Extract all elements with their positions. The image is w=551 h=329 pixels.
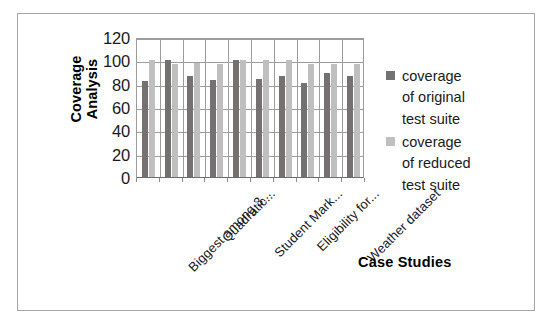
legend-entry-1[interactable]: coverage of reduced test suite	[386, 132, 536, 196]
x-axis-tick	[204, 178, 205, 182]
y-tick-label-80: 80	[80, 76, 130, 93]
bar-reduced-2	[194, 63, 200, 177]
bar-original-4	[233, 60, 239, 177]
y-tick-label-0: 0	[80, 170, 130, 187]
bar-reduced-5	[263, 60, 269, 177]
bar-reduced-7	[308, 64, 314, 177]
plot-area	[136, 38, 364, 178]
bar-original-3	[210, 80, 216, 177]
x-axis-tick	[136, 178, 137, 182]
bar-reduced-3	[217, 64, 223, 177]
x-axis-tick	[296, 178, 297, 182]
bar-group	[228, 39, 251, 177]
y-tick-label-40: 40	[80, 123, 130, 140]
x-axis-tick	[159, 178, 160, 182]
x-axis-tick	[364, 178, 365, 182]
x-axis-tick	[341, 178, 342, 182]
y-tick-label-120: 120	[80, 30, 130, 47]
bar-reduced-0	[149, 60, 155, 177]
x-axis-title: Case Studies	[358, 254, 451, 270]
x-axis-tick	[318, 178, 319, 182]
bar-group	[183, 39, 206, 177]
bar-group	[342, 39, 365, 177]
plot-inner	[137, 39, 363, 178]
y-tick-label-100: 100	[80, 53, 130, 70]
bar-reduced-8	[331, 64, 337, 177]
bar-original-6	[279, 76, 285, 178]
bar-group	[251, 39, 274, 177]
bar-reduced-1	[172, 64, 178, 177]
legend-entry-0[interactable]: coverage of original test suite	[386, 66, 536, 130]
bar-original-1	[165, 60, 171, 177]
bar-group	[160, 39, 183, 177]
x-axis-tick	[182, 178, 183, 182]
bar-original-7	[301, 83, 307, 178]
bar-reduced-4	[240, 60, 246, 177]
chart-frame: Coverage Analysis 120100806040200 Bigges…	[17, 13, 535, 311]
y-tick-label-60: 60	[80, 100, 130, 117]
y-tick-label-20: 20	[80, 146, 130, 163]
bar-group	[205, 39, 228, 177]
bar-reduced-6	[286, 60, 292, 177]
legend-label-1: coverage of reduced test suite	[402, 132, 536, 196]
bar-original-0	[142, 81, 148, 177]
chart-legend: coverage of original test suitecoverage …	[386, 66, 536, 198]
bar-group	[297, 39, 320, 177]
bar-group	[137, 39, 160, 177]
x-axis-tick	[273, 178, 274, 182]
bar-original-2	[187, 76, 193, 178]
reduced-series-swatch	[386, 137, 395, 146]
chart-figure: Coverage Analysis 120100806040200 Bigges…	[0, 0, 551, 329]
bar-original-9	[347, 76, 353, 178]
x-category-label-1: Quadratic...	[219, 186, 278, 245]
x-axis-tick	[227, 178, 228, 182]
x-axis-tick	[250, 178, 251, 182]
bar-original-8	[324, 73, 330, 177]
legend-label-0: coverage of original test suite	[402, 66, 536, 130]
y-axis-tick-labels: 120100806040200	[80, 38, 130, 178]
bar-group	[274, 39, 297, 177]
original-series-swatch	[386, 71, 395, 80]
bar-group	[319, 39, 342, 177]
bar-reduced-9	[354, 64, 360, 177]
bar-original-5	[256, 79, 262, 177]
